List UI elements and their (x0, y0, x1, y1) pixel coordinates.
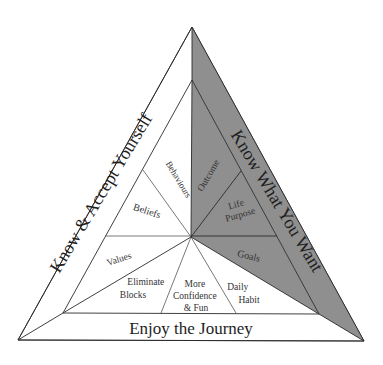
label-enjoy-the-journey: Enjoy the Journey (129, 319, 253, 338)
triangle-diagram: Know & Accept Yourself Know What You Wan… (0, 0, 383, 365)
